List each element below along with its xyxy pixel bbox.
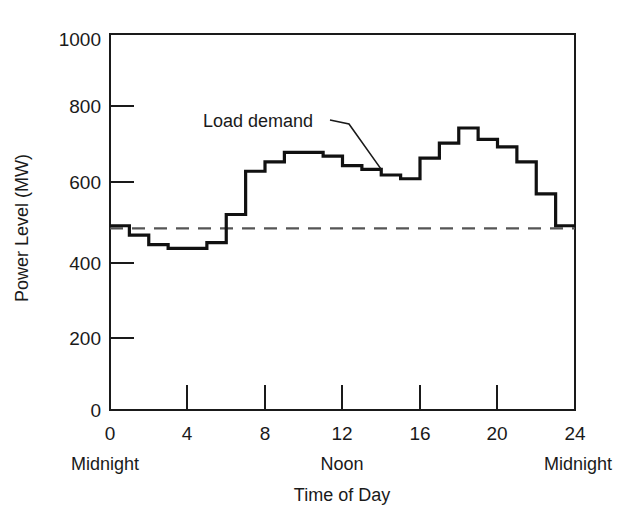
y-tick-label-0: 0 bbox=[90, 400, 101, 421]
load-demand-leader-line bbox=[330, 120, 381, 169]
x-axis-tick-labels: 0 4 8 12 16 20 24 bbox=[105, 423, 586, 444]
load-demand-annotation-label: Load demand bbox=[203, 111, 313, 131]
x-tick-label-16: 16 bbox=[409, 423, 430, 444]
x-axis-title: Time of Day bbox=[294, 485, 390, 505]
edge-label-noon: Noon bbox=[320, 454, 363, 474]
edge-label-midnight-end: Midnight bbox=[544, 454, 612, 474]
load-demand-step-curve bbox=[110, 128, 575, 248]
x-axis-ticks bbox=[187, 385, 497, 410]
y-tick-label-600: 600 bbox=[69, 172, 101, 193]
x-tick-label-24: 24 bbox=[564, 423, 586, 444]
x-tick-label-0: 0 bbox=[105, 423, 116, 444]
load-demand-chart: 1000 800 600 400 200 0 0 4 8 12 16 20 24… bbox=[0, 0, 639, 520]
x-tick-label-12: 12 bbox=[331, 423, 352, 444]
x-axis-edge-labels: Midnight Noon Midnight bbox=[71, 454, 612, 474]
y-axis-ticks bbox=[110, 106, 134, 338]
plot-frame bbox=[110, 34, 575, 410]
edge-label-midnight-start: Midnight bbox=[71, 454, 139, 474]
x-tick-label-4: 4 bbox=[182, 423, 193, 444]
y-tick-label-200: 200 bbox=[69, 328, 101, 349]
x-tick-label-20: 20 bbox=[486, 423, 507, 444]
y-tick-label-800: 800 bbox=[69, 96, 101, 117]
y-axis-tick-labels: 1000 800 600 400 200 0 bbox=[59, 29, 101, 421]
y-tick-label-400: 400 bbox=[69, 253, 101, 274]
y-axis-title: Power Level (MW) bbox=[12, 154, 32, 302]
chart-figure: 1000 800 600 400 200 0 0 4 8 12 16 20 24… bbox=[0, 0, 639, 520]
plot-axes bbox=[110, 34, 575, 410]
x-tick-label-8: 8 bbox=[260, 423, 271, 444]
y-tick-label-1000: 1000 bbox=[59, 29, 101, 50]
